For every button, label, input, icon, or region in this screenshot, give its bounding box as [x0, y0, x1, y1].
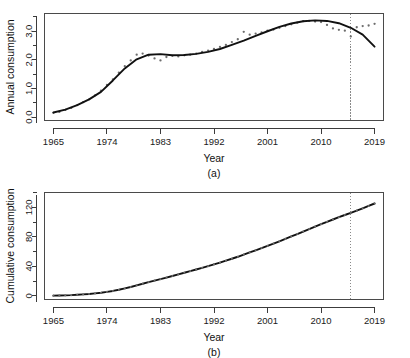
data-point — [261, 247, 263, 249]
y-tick-label: 80 — [23, 231, 34, 242]
data-point — [320, 223, 322, 225]
scatter-series — [52, 20, 375, 114]
x-tick-label: 1965 — [43, 315, 64, 326]
y-tick-label: 1.0 — [23, 82, 34, 95]
data-point — [213, 263, 215, 265]
data-point — [243, 31, 245, 33]
x-tick-label: 2001 — [257, 136, 278, 147]
data-point — [373, 23, 375, 25]
y-tick-label: 0 — [23, 293, 34, 298]
data-point — [284, 238, 286, 240]
data-point — [308, 228, 310, 230]
data-point — [362, 207, 364, 209]
data-point — [249, 34, 251, 36]
data-point — [266, 245, 268, 247]
data-point — [326, 221, 328, 223]
data-point — [52, 295, 54, 297]
data-point — [356, 26, 358, 28]
data-point — [362, 25, 364, 27]
data-point — [338, 29, 340, 31]
x-tick-label: 2019 — [364, 315, 385, 326]
data-point — [82, 293, 84, 295]
data-point — [165, 277, 167, 279]
x-tick-label: 1974 — [96, 136, 117, 147]
data-point — [219, 262, 221, 264]
panel-tag: (b) — [208, 346, 221, 358]
fit-curve — [53, 204, 374, 296]
x-axis-title: Year — [203, 152, 225, 164]
x-tick-label: 1974 — [96, 315, 117, 326]
data-point — [124, 287, 126, 289]
panel-b: 040801201965197419831992200120102019Year… — [0, 179, 410, 358]
data-point — [130, 286, 132, 288]
panel-tag: (a) — [208, 167, 221, 179]
data-point — [159, 278, 161, 280]
x-tick-label: 1983 — [150, 136, 171, 147]
x-tick-label: 2010 — [310, 136, 331, 147]
data-point — [100, 292, 102, 294]
x-tick-label: 2010 — [310, 315, 331, 326]
data-point — [153, 57, 155, 59]
data-point — [153, 280, 155, 282]
fit-curve — [53, 20, 374, 112]
data-point — [70, 294, 72, 296]
data-point — [344, 214, 346, 216]
data-point — [148, 281, 150, 283]
plot-frame — [45, 14, 384, 121]
data-point — [356, 210, 358, 212]
data-point — [368, 205, 370, 207]
data-point — [118, 289, 120, 291]
data-point — [136, 54, 138, 56]
data-point — [302, 230, 304, 232]
data-point — [165, 56, 167, 58]
data-point — [207, 265, 209, 267]
data-point — [141, 52, 143, 54]
data-point — [278, 240, 280, 242]
data-point — [112, 290, 114, 292]
panel-a: 0.01.02.03.01965197419831992200120102019… — [0, 0, 410, 179]
x-tick-label: 2019 — [364, 136, 385, 147]
data-point — [58, 294, 60, 296]
data-point — [249, 251, 251, 253]
data-point — [76, 294, 78, 296]
data-point — [201, 267, 203, 269]
data-point — [374, 202, 376, 204]
data-point — [237, 38, 239, 40]
data-point — [231, 41, 233, 43]
data-point — [332, 218, 334, 220]
data-point — [94, 292, 96, 294]
data-point — [195, 268, 197, 270]
x-tick-label: 1992 — [203, 136, 224, 147]
data-point — [159, 59, 161, 61]
data-point — [314, 226, 316, 228]
panel-a-plot: 0.01.02.03.01965197419831992200120102019… — [0, 0, 410, 179]
panel-b-plot: 040801201965197419831992200120102019Year… — [0, 179, 410, 358]
data-point — [136, 284, 138, 286]
data-point — [231, 258, 233, 260]
y-tick-label: 0.0 — [23, 110, 34, 123]
plot-frame — [45, 193, 384, 300]
x-tick-label: 1992 — [203, 315, 224, 326]
data-point — [296, 233, 298, 235]
data-point — [142, 283, 144, 285]
y-axis-title: Annual consumption — [4, 19, 16, 114]
x-tick-label: 1965 — [43, 136, 64, 147]
data-point — [183, 272, 185, 274]
data-point — [290, 235, 292, 237]
data-point — [332, 27, 334, 29]
data-point — [255, 249, 257, 251]
data-point — [130, 59, 132, 61]
data-point — [350, 212, 352, 214]
data-point — [88, 293, 90, 295]
data-point — [243, 254, 245, 256]
y-tick-label: 40 — [23, 261, 34, 272]
y-tick-label: 2.0 — [23, 53, 34, 66]
y-axis-title: Cumulative consumption — [4, 188, 16, 303]
data-point — [344, 30, 346, 32]
data-point — [189, 270, 191, 272]
x-tick-label: 2001 — [257, 315, 278, 326]
data-point — [225, 260, 227, 262]
scatter-series — [52, 202, 375, 296]
data-point — [338, 216, 340, 218]
figure-container: 0.01.02.03.01965197419831992200120102019… — [0, 0, 410, 358]
